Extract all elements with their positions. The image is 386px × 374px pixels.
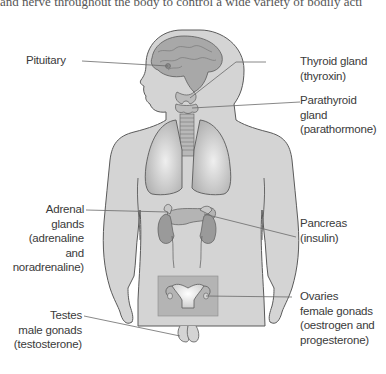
label-testes: Testes male gonads (testosterone) xyxy=(14,308,82,352)
label-ovaries: Ovaries female gonads (oestrogen and pro… xyxy=(300,289,375,347)
label-adrenal: Adrenal glands (adrenaline and noradrena… xyxy=(13,202,84,275)
testes xyxy=(178,326,199,342)
label-parathyroid: Parathyroid gland (parathormone) xyxy=(300,93,376,137)
label-thyroid: Thyroid gland (thyroxin) xyxy=(300,54,367,83)
label-pituitary: Pituitary xyxy=(26,53,66,68)
label-pancreas: Pancreas (insulin) xyxy=(300,216,347,245)
ovary-left xyxy=(168,293,173,299)
